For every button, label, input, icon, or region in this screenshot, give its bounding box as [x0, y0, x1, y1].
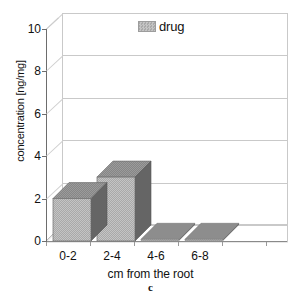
y-tick-label-6: 6: [34, 107, 41, 121]
legend: drug: [138, 19, 184, 34]
y-tick-label-10: 10: [28, 22, 41, 36]
x-axis-label-0-2: 0-2: [59, 249, 76, 263]
y-tick-label-0: 0: [34, 234, 41, 248]
x-axis-label-6-8: 6-8: [191, 249, 208, 263]
x-tick-0: [46, 242, 47, 246]
y-tick-label-2: 2: [34, 192, 41, 206]
x-axis-label-2-4: 2-4: [103, 249, 120, 263]
x-axis-label-4-6: 4-6: [147, 249, 164, 263]
panel-caption: c: [0, 281, 301, 293]
y-tick-label-8: 8: [34, 64, 41, 78]
plot-area: 10 8 6 4 2 0: [46, 13, 288, 240]
x-tick-3: [178, 242, 179, 246]
x-tick-2: [134, 242, 135, 246]
x-axis-title: cm from the root: [0, 267, 301, 281]
bar-chart-figure: concentration [ng/mg]: [0, 0, 301, 297]
legend-swatch-drug: [138, 21, 156, 32]
y-tick-label-4: 4: [34, 149, 41, 163]
legend-label-drug: drug: [159, 19, 184, 34]
x-tick-4: [222, 242, 223, 246]
bar-0-2: [53, 183, 107, 241]
y-axis-title: concentration [ng/mg]: [14, 21, 26, 201]
bar-series-drug: [46, 13, 288, 242]
x-tick-1: [90, 242, 91, 246]
x-tick-5: [266, 242, 267, 246]
